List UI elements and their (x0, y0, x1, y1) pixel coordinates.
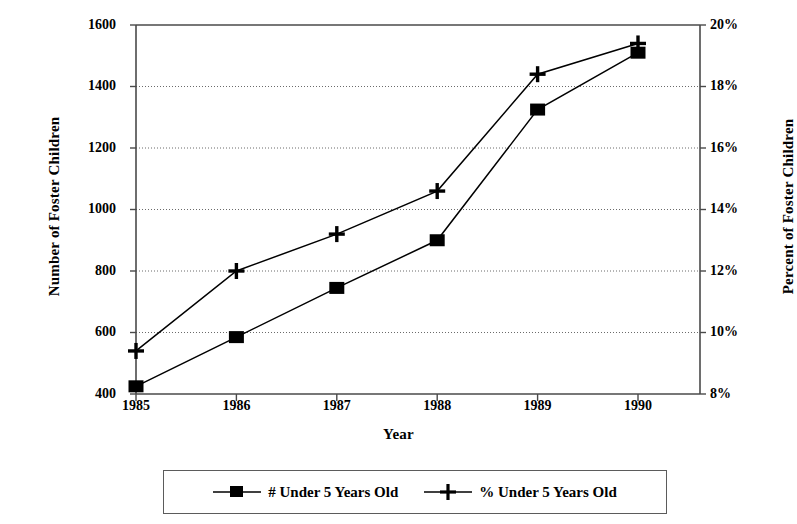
chart-container: Number of Foster Children Percent of Fos… (0, 0, 797, 524)
legend: # Under 5 Years Old % Under 5 Years Old (163, 470, 667, 514)
plus-marker (424, 484, 472, 500)
legend-item-percent[interactable]: % Under 5 Years Old (424, 484, 617, 501)
square-marker (213, 484, 261, 500)
legend-label-percent: % Under 5 Years Old (479, 484, 617, 501)
plot-area (0, 0, 797, 524)
legend-item-number[interactable]: # Under 5 Years Old (213, 484, 398, 501)
series-percent-line (128, 35, 646, 359)
gridlines (136, 87, 700, 333)
legend-label-number: # Under 5 Years Old (268, 484, 398, 501)
axis-ticks (130, 25, 706, 401)
series-number-line (129, 47, 646, 393)
